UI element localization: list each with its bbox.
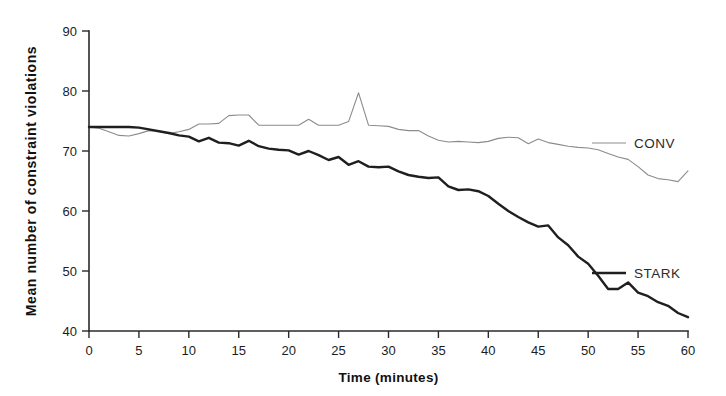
x-tick-label: 20 <box>281 343 295 358</box>
chart-legend: CONVSTARK <box>592 136 681 281</box>
series-line-stark <box>89 127 688 317</box>
line-chart: 405060708090 051015202530354045505560 CO… <box>0 0 726 396</box>
legend-label-conv: CONV <box>634 136 675 151</box>
x-tick-label: 10 <box>182 343 196 358</box>
series-line-conv <box>89 93 688 182</box>
x-tick-label: 0 <box>85 343 92 358</box>
y-tick-label: 50 <box>63 264 77 279</box>
y-tick-label: 80 <box>63 84 77 99</box>
legend-label-stark: STARK <box>634 266 681 281</box>
data-series-group <box>89 93 688 317</box>
x-tick-label: 30 <box>381 343 395 358</box>
y-tick-label: 90 <box>63 24 77 39</box>
y-tick-label: 70 <box>63 144 77 159</box>
x-tick-label: 15 <box>232 343 246 358</box>
x-tick-label: 45 <box>531 343 545 358</box>
x-tick-label: 60 <box>681 343 695 358</box>
x-tick-label: 55 <box>631 343 645 358</box>
x-axis-title: Time (minutes) <box>339 370 439 385</box>
x-axis-ticks: 051015202530354045505560 <box>85 331 695 358</box>
x-tick-label: 5 <box>135 343 142 358</box>
y-tick-label: 40 <box>63 324 77 339</box>
x-tick-label: 40 <box>481 343 495 358</box>
x-tick-label: 35 <box>431 343 445 358</box>
y-axis-title: Mean number of constraint violations <box>23 46 39 317</box>
chart-figure: 405060708090 051015202530354045505560 CO… <box>0 0 726 396</box>
y-tick-label: 60 <box>63 204 77 219</box>
x-tick-label: 50 <box>581 343 595 358</box>
y-axis-ticks: 405060708090 <box>63 24 89 339</box>
x-tick-label: 25 <box>331 343 345 358</box>
